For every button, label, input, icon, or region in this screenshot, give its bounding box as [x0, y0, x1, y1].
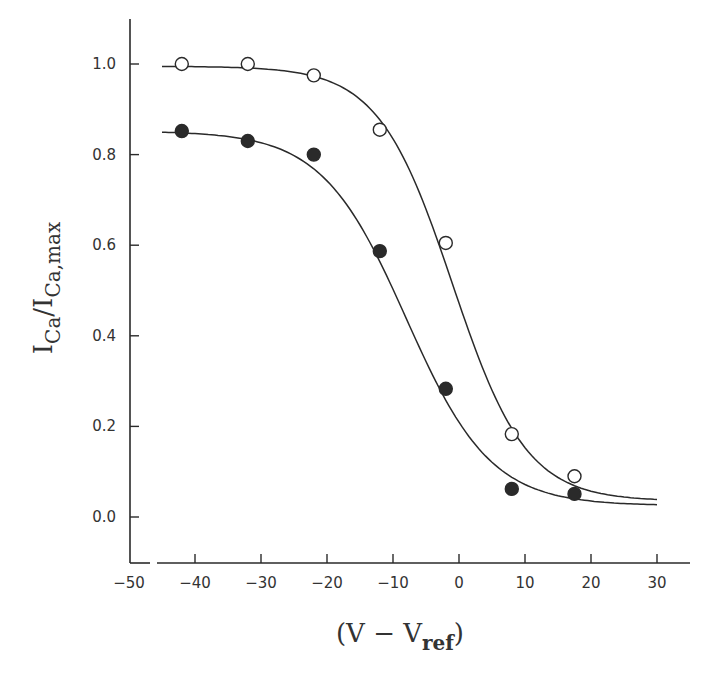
filled-circle-marker: [373, 245, 386, 258]
filled-circle-marker: [568, 487, 581, 500]
y-tick-label: 0.8: [92, 146, 116, 164]
filled-circle-marker: [505, 482, 518, 495]
y-tick-label: 0.4: [92, 327, 116, 345]
x-tick-label: −30: [245, 574, 277, 592]
fit-curves: [162, 66, 657, 504]
y-tick-label: 1.0: [92, 55, 116, 73]
open-circle-marker: [175, 58, 188, 71]
filled-circle-marker: [241, 135, 254, 148]
open-circle-marker: [241, 58, 254, 71]
filled-circle-marker: [175, 125, 188, 138]
open-circle-marker: [439, 236, 452, 249]
x-tick-label: 0: [454, 574, 464, 592]
open-circle-marker: [373, 123, 386, 136]
open-circle-marker: [307, 69, 320, 82]
x-tick-label: −40: [179, 574, 211, 592]
x-tick-label: 20: [581, 574, 600, 592]
chart: 0.00.20.40.60.81.0−50−40−30−20−100102030…: [0, 0, 706, 673]
fit-curve: [162, 66, 657, 499]
x-tick-label: −50: [113, 574, 145, 592]
x-tick-label: 10: [515, 574, 534, 592]
filled-circle-marker: [439, 382, 452, 395]
y-axis-title: ICa/ICa,max: [28, 221, 65, 354]
filled-circle-marker: [307, 148, 320, 161]
x-tick-label: −10: [377, 574, 409, 592]
axes: 0.00.20.40.60.81.0−50−40−30−20−100102030: [92, 19, 690, 592]
x-tick-label: 30: [647, 574, 666, 592]
x-tick-label: −20: [311, 574, 343, 592]
data-points: [175, 58, 581, 501]
y-tick-label: 0.2: [92, 417, 116, 435]
fit-curve: [162, 132, 657, 505]
y-tick-label: 0.0: [92, 508, 116, 526]
open-circle-marker: [505, 428, 518, 441]
x-axis-title: (V − Vref): [336, 618, 464, 655]
open-circle-marker: [568, 470, 581, 483]
y-tick-label: 0.6: [92, 236, 116, 254]
